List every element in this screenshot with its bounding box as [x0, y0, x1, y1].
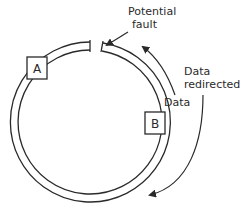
data-arrow [143, 47, 175, 95]
fault-label-line1: Potential [128, 5, 176, 18]
ring-diagram [0, 0, 243, 207]
node-a-label: A [27, 62, 47, 76]
fault-label-line2: fault [132, 18, 157, 31]
node-b-label: B [145, 117, 165, 131]
fault-arrow [107, 32, 128, 45]
fault-tick-right [101, 41, 103, 52]
redirected-label-line2: redirected [184, 78, 240, 91]
redirected-label-line1: Data [184, 65, 210, 78]
data-label: Data [164, 96, 190, 109]
